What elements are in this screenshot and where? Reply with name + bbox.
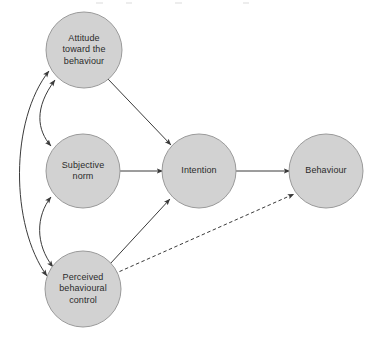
node-perceived-behavioural-control[interactable]	[45, 251, 121, 327]
node-intention[interactable]	[162, 134, 236, 208]
node-behaviour[interactable]	[289, 134, 363, 208]
node-attitude[interactable]	[46, 12, 122, 88]
edge-perceived-behavioural-control-to-intention	[110, 199, 170, 264]
diagram-canvas	[0, 0, 375, 339]
edge-attitude-to-intention	[108, 79, 171, 145]
edge-attitude-perceived-behavioural-control-correlation	[19, 71, 49, 276]
edge-attitude-subjective-norm-correlation	[40, 80, 55, 146]
edge-subjective-norm-perceived-behavioural-control-correlation	[40, 197, 53, 267]
theory-of-planned-behaviour-diagram: Attitude toward the behaviour Subjective…	[0, 0, 375, 339]
node-subjective-norm[interactable]	[46, 134, 120, 208]
